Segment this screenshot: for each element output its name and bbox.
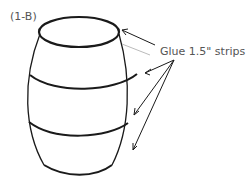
barrel-top-rim [39,17,119,47]
barrel-right-side [112,34,127,165]
glue-strip-2 [29,122,128,136]
barrel-left-side [28,34,44,165]
guide-line [122,44,150,55]
arrow-to-strip-2 [134,60,174,115]
callout-label: Glue 1.5" strips [160,45,245,58]
barrel-bottom-rim [44,165,112,175]
glue-strip-1 [30,74,137,89]
arrow-to-bottom [133,60,174,150]
barrel-diagram: (1-B) Glue 1.5" strips [0,0,252,185]
arrow-to-top-rim [122,30,155,45]
step-label: (1-B) [10,10,37,23]
